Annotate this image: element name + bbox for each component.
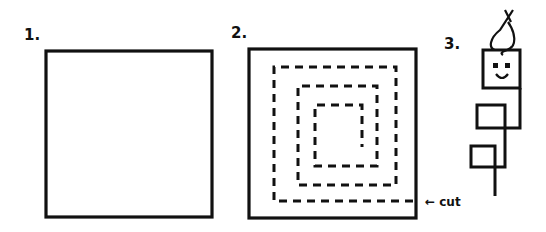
cut-annotation: ← cut (425, 195, 461, 209)
step-2: 2. ← cut (231, 24, 461, 218)
spiral-body (471, 88, 520, 196)
step-3-label: 3. (444, 35, 460, 53)
step-3: 3. (444, 10, 520, 196)
step-1: 1. (24, 26, 212, 217)
right-eye-icon (505, 63, 510, 68)
dashed-spiral (274, 67, 413, 201)
instruction-diagram: 1. 2. ← cut 3. (0, 0, 546, 232)
step-1-label: 1. (24, 26, 40, 44)
smile-icon (496, 74, 508, 78)
plain-square (46, 51, 212, 217)
left-eye-icon (493, 63, 498, 68)
step-2-label: 2. (231, 24, 247, 42)
hanging-string-icon (491, 10, 514, 55)
head-square (483, 50, 520, 88)
